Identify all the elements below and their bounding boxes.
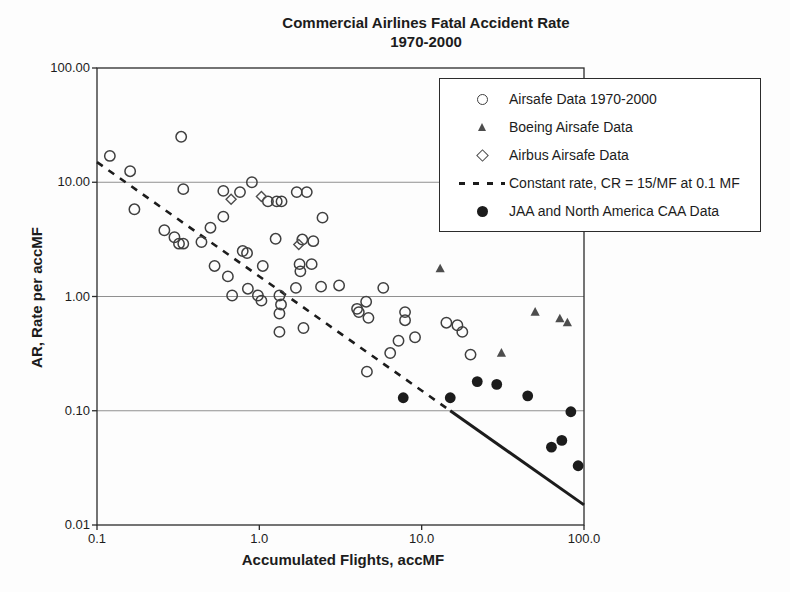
legend-item: JAA and North America CAA Data: [440, 197, 760, 225]
filled-circle-icon: [462, 206, 502, 217]
open-circle-point: [258, 261, 268, 271]
open-circle-point: [292, 187, 302, 197]
open-circle-point: [227, 290, 237, 300]
filled-triangle-point: [497, 348, 506, 357]
open-circle-point: [243, 284, 253, 294]
open-circle-point: [223, 271, 233, 281]
y-tick-label: 1.00: [28, 289, 90, 304]
legend-item-label: Boeing Airsafe Data: [509, 119, 633, 135]
filled-circle-point: [565, 406, 576, 417]
filled-triangle-icon: [478, 123, 486, 131]
open-circle-point: [306, 259, 316, 269]
legend-item: Constant rate, CR = 15/MF at 0.1 MF: [440, 169, 760, 197]
x-tick-label: 0.1: [65, 531, 129, 546]
open-circle-point: [302, 187, 312, 197]
legend: Airsafe Data 1970-2000Boeing Airsafe Dat…: [439, 78, 761, 232]
open-circle-point: [385, 348, 395, 358]
y-tick-label: 100.00: [28, 60, 90, 75]
open-circle-point: [291, 283, 301, 293]
open-circle-point: [274, 327, 284, 337]
legend-item-label: Airsafe Data 1970-2000: [509, 91, 657, 107]
open-circle-point: [363, 313, 373, 323]
open-circle-point: [393, 336, 403, 346]
open-diamond-icon: [476, 149, 489, 162]
filled-circle-point: [546, 442, 557, 453]
legend-item-label: Constant rate, CR = 15/MF at 0.1 MF: [509, 175, 740, 191]
x-tick-label: 100.0: [552, 531, 616, 546]
open-circle-point: [441, 317, 451, 327]
filled-circle-point: [472, 376, 483, 387]
open-diamond-point: [226, 194, 236, 204]
open-diamond-icon: [462, 151, 502, 160]
open-circle-point: [316, 281, 326, 291]
open-circle-point: [334, 280, 344, 290]
filled-triangle-icon: [462, 123, 502, 131]
open-circle-point: [354, 307, 364, 317]
filled-circle-point: [398, 392, 409, 403]
constant-rate-line-dashed: [97, 162, 450, 411]
open-circle-point: [178, 184, 188, 194]
open-circle-point: [218, 186, 228, 196]
open-circle-point: [308, 236, 318, 246]
open-circle-point: [362, 366, 372, 376]
filled-triangle-point: [555, 314, 564, 323]
open-circle-point: [295, 266, 305, 276]
open-circle-point: [235, 187, 245, 197]
y-tick-label: 0.01: [28, 517, 90, 532]
filled-circle-point: [556, 435, 567, 446]
filled-circle-point: [491, 379, 502, 390]
open-circle-point: [465, 349, 475, 359]
legend-item: Airbus Airsafe Data: [440, 141, 760, 169]
open-circle-point: [378, 283, 388, 293]
filled-circle-icon: [477, 206, 488, 217]
open-circle-point: [317, 212, 327, 222]
legend-item-label: JAA and North America CAA Data: [509, 203, 719, 219]
open-circle-point: [105, 151, 115, 161]
open-circle-point: [176, 132, 186, 142]
y-tick-label: 0.10: [28, 403, 90, 418]
open-circle-point: [298, 323, 308, 333]
filled-circle-point: [522, 390, 533, 401]
constant-rate-line-solid: [450, 411, 584, 505]
x-tick-label: 10.0: [390, 531, 454, 546]
y-tick-label: 10.00: [28, 174, 90, 189]
legend-item: Airsafe Data 1970-2000: [440, 85, 760, 113]
filled-circle-point: [573, 460, 584, 471]
open-circle-point: [209, 261, 219, 271]
open-circle-icon: [462, 94, 502, 105]
open-circle-point: [205, 223, 215, 233]
open-circle-point: [218, 211, 228, 221]
open-circle-point: [159, 225, 169, 235]
filled-triangle-point: [531, 307, 540, 316]
legend-item: Boeing Airsafe Data: [440, 113, 760, 141]
open-circle-icon: [477, 94, 488, 105]
filled-triangle-point: [436, 264, 445, 273]
x-axis-title: Accumulated Flights, accMF: [143, 551, 543, 568]
open-circle-point: [125, 166, 135, 176]
open-circle-point: [196, 237, 206, 247]
open-circle-point: [270, 234, 280, 244]
open-circle-point: [129, 204, 139, 214]
filled-circle-point: [445, 392, 456, 403]
dashed-line-icon: [462, 182, 502, 185]
dashed-line-icon: [459, 182, 505, 185]
legend-item-label: Airbus Airsafe Data: [509, 147, 629, 163]
chart-canvas: Commercial Airlines Fatal Accident Rate …: [0, 0, 790, 592]
open-circle-point: [361, 297, 371, 307]
open-circle-point: [410, 332, 420, 342]
x-tick-label: 1.0: [227, 531, 291, 546]
